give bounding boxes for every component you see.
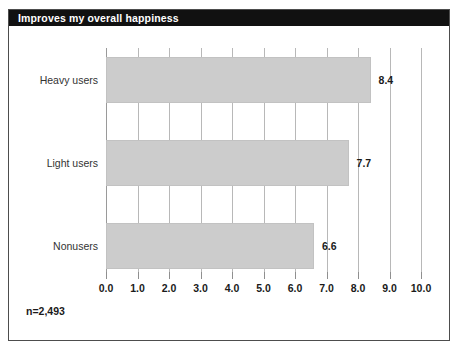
x-axis-tick-label: 10.0 (401, 282, 441, 294)
bar-value-label: 8.4 (379, 74, 394, 86)
x-axis-tick (390, 272, 391, 279)
bar (106, 140, 349, 186)
x-axis-tick (264, 272, 265, 279)
category-label: Heavy users (18, 74, 98, 86)
chart-figure: Improves my overall happiness 0.01.02.03… (0, 0, 463, 354)
bar (106, 223, 314, 269)
x-axis-tick (106, 272, 107, 279)
bar-value-label: 6.6 (322, 240, 337, 252)
plot-area: 0.01.02.03.04.05.06.07.08.09.010.08.4Hea… (106, 48, 421, 272)
category-label: Light users (18, 157, 98, 169)
x-axis-tick (232, 272, 233, 279)
x-axis-tick (295, 272, 296, 279)
x-axis-tick (138, 272, 139, 279)
chart-title-bar: Improves my overall happiness (9, 10, 449, 26)
x-axis-tick (327, 272, 328, 279)
gridline (421, 48, 422, 272)
bar (106, 57, 371, 103)
sample-size-note: n=2,493 (26, 305, 65, 317)
page-title: Improves my overall happiness (18, 12, 179, 24)
x-axis-tick (421, 272, 422, 279)
category-label: Nonusers (18, 240, 98, 252)
bar-value-label: 7.7 (357, 157, 372, 169)
x-axis-tick (358, 272, 359, 279)
x-axis-tick (169, 272, 170, 279)
x-axis-tick (201, 272, 202, 279)
